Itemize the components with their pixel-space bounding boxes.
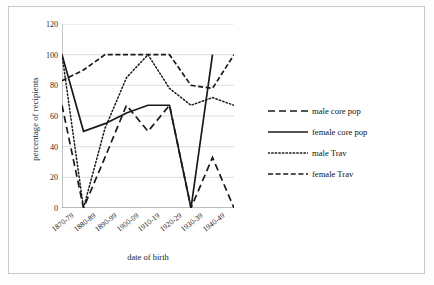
y-axis-title-label: percentage of recipients bbox=[30, 34, 40, 204]
series-line-2 bbox=[62, 55, 234, 208]
legend-label: male Trav bbox=[312, 148, 347, 158]
legend-swatch-dotted bbox=[268, 148, 308, 158]
y-tick-label: 60 bbox=[50, 112, 58, 121]
legend-swatch-dash-dot bbox=[268, 169, 308, 179]
y-tick-label: 120 bbox=[46, 20, 58, 29]
legend-item[interactable]: female Trav bbox=[268, 163, 418, 184]
y-tick-label: 80 bbox=[50, 81, 58, 90]
legend-label: female Trav bbox=[312, 169, 353, 179]
plot-area: percentage of recipients 020406080100120… bbox=[62, 24, 234, 208]
legend-item[interactable]: female core pop bbox=[268, 121, 418, 142]
y-tick-label: 20 bbox=[50, 173, 58, 182]
legend-swatch-dashed bbox=[268, 106, 308, 116]
plot-svg bbox=[62, 24, 234, 208]
x-axis-title: date of birth bbox=[62, 252, 234, 262]
legend-label: female core pop bbox=[312, 127, 367, 137]
y-tick-label: 40 bbox=[50, 142, 58, 151]
legend-swatch-solid bbox=[268, 127, 308, 137]
y-tick-label: 100 bbox=[46, 50, 58, 59]
legend-item[interactable]: male core pop bbox=[268, 100, 418, 121]
chart-legend: male core popfemale core popmale Travfem… bbox=[268, 100, 418, 184]
chart-figure: percentage of recipients 020406080100120… bbox=[0, 0, 434, 285]
y-tick-label: 0 bbox=[54, 204, 58, 213]
legend-label: male core pop bbox=[312, 106, 361, 116]
legend-item[interactable]: male Trav bbox=[268, 142, 418, 163]
series-line-1 bbox=[62, 55, 213, 208]
